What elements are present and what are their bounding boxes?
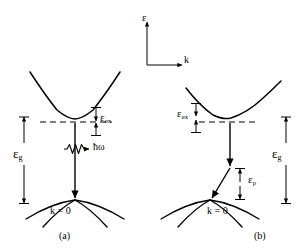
axes-group bbox=[147, 22, 182, 65]
panel-b-phonon-arrow bbox=[212, 168, 230, 198]
band-structure-figure bbox=[0, 0, 306, 250]
panel-b-conduction-band bbox=[186, 81, 281, 119]
panel-b-k-zero-label: k = 0 bbox=[207, 206, 228, 216]
panel-a-valence-branch-hh-right bbox=[75, 200, 124, 219]
panel-a-exciton-subscript: ex bbox=[105, 117, 111, 124]
panel-b-valence-branch-hh-left bbox=[161, 200, 210, 219]
panel-b-bandgap-measure bbox=[281, 117, 291, 204]
panel-b-bandgap-label: εg bbox=[272, 147, 282, 162]
panel-a-caption: (a) bbox=[59, 231, 70, 241]
panel-b-caption: (b) bbox=[254, 231, 266, 241]
panel-b-phonon-subscript: p bbox=[253, 179, 256, 186]
panel-b-exciton-subscript: ex bbox=[182, 113, 188, 120]
panel-a-k-zero-label: k = 0 bbox=[50, 206, 71, 216]
panel-a-group bbox=[19, 72, 124, 227]
panel-a-exciton-label: εex bbox=[100, 112, 111, 125]
wavevector-axis-label: k bbox=[184, 55, 189, 65]
panel-b-bandgap-subscript: g bbox=[277, 153, 281, 162]
panel-b-exciton-label: εex bbox=[177, 108, 188, 121]
panel-a-photon-label: ħω bbox=[93, 142, 105, 152]
energy-axis-label: ε bbox=[142, 12, 147, 23]
panel-b-exciton-measure bbox=[191, 104, 201, 133]
panel-a-bandgap-label: εg bbox=[13, 147, 23, 162]
panel-b-phonon-label: εp bbox=[248, 174, 256, 187]
panel-a-bandgap-subscript: g bbox=[18, 153, 22, 162]
panel-a-photon-wave-icon bbox=[64, 145, 89, 154]
panel-b-phonon-measure bbox=[235, 169, 245, 200]
